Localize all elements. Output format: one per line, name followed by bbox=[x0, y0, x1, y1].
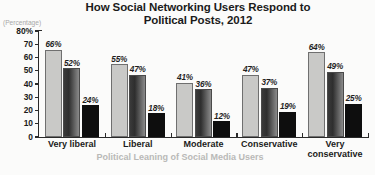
y-tick-label: 50 bbox=[3, 66, 33, 74]
bar-group: 55%47%18% bbox=[105, 31, 171, 137]
bar: 18% bbox=[148, 113, 165, 137]
bar: 41% bbox=[176, 83, 193, 137]
chart-title: How Social Networking Users Respond to P… bbox=[52, 1, 344, 26]
category-label: Very liberal bbox=[39, 139, 105, 149]
y-tick-label: 40 bbox=[3, 80, 33, 88]
bar: 49% bbox=[327, 72, 344, 137]
bar-chart: How Social Networking Users Respond to P… bbox=[0, 0, 375, 175]
bar: 19% bbox=[279, 112, 296, 137]
category-label-line: Conservative bbox=[236, 139, 302, 149]
bar-value-label: 24% bbox=[82, 97, 98, 106]
category-label-line: Moderate bbox=[171, 139, 237, 149]
y-tick-label: 80% bbox=[3, 27, 33, 35]
bar: 55% bbox=[111, 64, 128, 137]
plot-area: 66%52%24%55%47%18%41%36%12%47%37%19%64%4… bbox=[39, 31, 368, 137]
category-label: Liberal bbox=[105, 139, 171, 149]
bar-value-label: 52% bbox=[64, 60, 80, 69]
bar-value-label: 66% bbox=[45, 41, 61, 50]
chart-title-line-1: How Social Networking Users Respond to bbox=[52, 1, 344, 14]
category-label-line: Liberal bbox=[105, 139, 171, 149]
bar-value-label: 25% bbox=[346, 95, 362, 104]
bar-value-label: 37% bbox=[261, 79, 277, 88]
bar: 37% bbox=[261, 88, 278, 137]
y-tick-label: 70 bbox=[3, 40, 33, 48]
bar-value-label: 55% bbox=[111, 56, 127, 65]
bar-group: 66%52%24% bbox=[39, 31, 105, 137]
category-label-line: Very liberal bbox=[39, 139, 105, 149]
bar-value-label: 18% bbox=[148, 105, 164, 114]
bar: 12% bbox=[213, 121, 230, 137]
bar-group: 47%37%19% bbox=[236, 31, 302, 137]
category-label: Conservative bbox=[236, 139, 302, 149]
bar-group: 64%49%25% bbox=[302, 31, 368, 137]
y-tick-label: 10 bbox=[3, 119, 33, 127]
y-tick-label: 20 bbox=[3, 106, 33, 114]
bar-value-label: 47% bbox=[243, 66, 259, 75]
bar-value-label: 36% bbox=[196, 81, 212, 90]
bar: 66% bbox=[45, 50, 62, 137]
y-tick-label: 30 bbox=[3, 93, 33, 101]
bar-value-label: 64% bbox=[309, 44, 325, 53]
bar: 52% bbox=[63, 68, 80, 137]
x-axis-title: Political Leaning of Social Media Users bbox=[39, 152, 321, 162]
chart-title-line-2: Political Posts, 2012 bbox=[52, 14, 344, 27]
y-tick-label: 60 bbox=[3, 53, 33, 61]
category-label: Moderate bbox=[171, 139, 237, 149]
bar: 25% bbox=[345, 104, 362, 137]
bar-value-label: 41% bbox=[177, 74, 193, 83]
y-axis-tick-labels: 01020304050607080% bbox=[0, 0, 33, 175]
bar-value-label: 47% bbox=[130, 66, 146, 75]
y-tick-label: 0 bbox=[3, 133, 33, 141]
bar: 47% bbox=[129, 75, 146, 137]
bar: 24% bbox=[82, 105, 99, 137]
bar-value-label: 19% bbox=[280, 103, 296, 112]
category-label-line: Very bbox=[302, 139, 368, 149]
bar: 36% bbox=[195, 89, 212, 137]
bar-group: 41%36%12% bbox=[171, 31, 237, 137]
bar: 64% bbox=[308, 52, 325, 137]
bar: 47% bbox=[242, 75, 259, 137]
bar-value-label: 49% bbox=[327, 63, 343, 72]
bar-value-label: 12% bbox=[214, 113, 230, 122]
